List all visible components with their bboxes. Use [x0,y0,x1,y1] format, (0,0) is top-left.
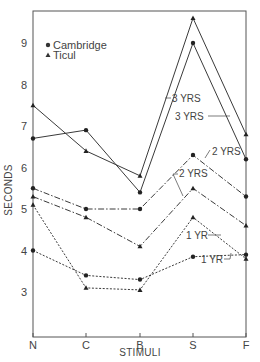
y-tick-label: 5 [21,203,27,215]
x-tick-label: F [243,339,250,351]
legend: Cambridge Ticul [46,39,107,61]
y-tick-label: 3 [21,286,27,298]
y-tick-label: 8 [21,79,27,91]
triangle-marker [191,16,196,21]
y-axis-ticks: 3456789 [21,37,27,298]
series-ticul-2-yrs [31,186,249,249]
triangle-marker [191,215,196,220]
triangle-marker [31,103,36,108]
annotation-3yrs-ticul: 3 YRS [172,93,201,104]
annotation-leader [224,253,231,259]
y-tick-label: 6 [21,162,27,174]
y-tick-label: 7 [21,120,27,132]
triangle-marker [244,132,249,137]
circle-marker [244,194,248,198]
annotation-3yrs-cambridge: 3 YRS [175,111,204,122]
circle-marker [138,190,142,194]
triangle-marker [244,223,249,228]
circle-marker [31,248,35,252]
x-tick-label: N [29,339,37,351]
circle-marker [84,273,88,277]
annotation-1yr-cambridge: 1 YR [201,254,223,265]
series-cambridge-2-yrs [31,153,248,211]
triangle-marker [191,186,196,191]
x-axis-title: STIMULI [119,347,161,358]
circle-marker [191,153,195,157]
annotation-2yrs-ticul: 2 YRS [179,168,208,179]
y-axis-title: SECONDS [3,164,14,216]
circle-marker [138,207,142,211]
legend-circle-marker [46,43,50,47]
annotation-1yr-ticul: 1 YR [186,230,208,241]
circle-marker [244,157,248,161]
x-tick-label: C [82,339,90,351]
circle-marker [31,186,35,190]
annotation-2yrs-cambridge: 2 YRS [212,146,241,157]
circle-marker [191,255,195,259]
line-chart: 3456789 NCBSF STIMULI SECONDS Cambridge … [0,0,260,362]
triangle-marker [31,194,36,199]
legend-triangle-marker [46,53,51,58]
circle-marker [244,252,248,256]
y-tick-label: 9 [21,37,27,49]
triangle-marker [84,285,89,290]
circle-marker [138,277,142,281]
triangle-marker [31,202,36,207]
x-tick-label: S [189,339,196,351]
series-cambridge-3-yrs [31,41,248,195]
circle-marker [191,41,195,45]
annotation-leader [205,150,210,158]
circle-marker [84,128,88,132]
y-tick-label: 4 [21,245,27,257]
circle-marker [31,136,35,140]
circle-marker [84,207,88,211]
legend-label-ticul: Ticul [53,49,76,61]
